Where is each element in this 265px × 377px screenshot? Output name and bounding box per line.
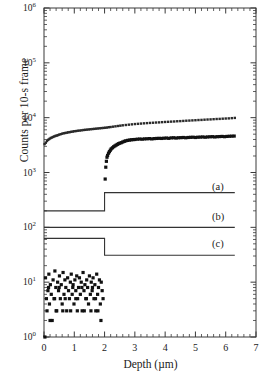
data-point xyxy=(68,297,71,300)
data-point xyxy=(85,297,88,300)
data-point xyxy=(146,122,148,124)
data-point xyxy=(71,293,74,296)
data-point xyxy=(53,297,56,300)
data-point xyxy=(85,278,88,281)
data-point xyxy=(80,281,83,284)
data-point xyxy=(91,289,94,292)
x-tick-label-0: 0 xyxy=(34,342,54,353)
data-point xyxy=(83,283,86,286)
y-tick-mantissa: 10 xyxy=(23,277,33,287)
data-point xyxy=(221,117,223,119)
data-point xyxy=(179,120,181,122)
data-point xyxy=(74,297,77,300)
data-point xyxy=(104,177,107,180)
data-point xyxy=(59,297,62,300)
data-point xyxy=(100,281,103,284)
data-point xyxy=(48,319,51,322)
figure-log-scatter-plot: Counts per 10-s frame Depth (µm) 1061051… xyxy=(0,0,265,377)
data-point xyxy=(60,283,63,286)
data-point xyxy=(97,286,100,289)
data-point xyxy=(64,286,67,289)
data-point xyxy=(233,134,236,137)
y-tick-mantissa: 10 xyxy=(23,222,33,232)
series-upper-scatter xyxy=(43,117,236,146)
data-point xyxy=(93,283,96,286)
data-point xyxy=(53,269,56,272)
data-point xyxy=(203,119,205,121)
data-point xyxy=(79,293,82,296)
data-point xyxy=(43,335,46,338)
data-point xyxy=(152,122,154,124)
data-point xyxy=(128,123,130,125)
data-point xyxy=(164,121,166,123)
data-point xyxy=(101,297,104,300)
data-point xyxy=(117,125,119,127)
data-point xyxy=(125,124,127,126)
data-point xyxy=(94,297,97,300)
data-point xyxy=(88,274,91,277)
data-point xyxy=(61,271,64,274)
data-point xyxy=(182,120,184,122)
data-point xyxy=(89,309,92,312)
data-point xyxy=(67,289,70,292)
y-tick-label-1e2: 102 xyxy=(10,221,36,233)
data-point xyxy=(78,276,81,279)
data-point xyxy=(72,302,75,305)
data-point xyxy=(58,274,61,277)
data-point xyxy=(155,121,157,123)
data-point xyxy=(99,302,102,305)
data-point xyxy=(69,309,72,312)
data-point xyxy=(200,119,202,121)
data-point xyxy=(206,118,208,120)
data-point xyxy=(46,289,49,292)
data-point xyxy=(105,160,108,163)
y-tick-mantissa: 10 xyxy=(23,58,33,68)
data-point xyxy=(101,289,104,292)
data-point xyxy=(66,276,69,279)
data-point xyxy=(77,286,80,289)
data-point xyxy=(170,120,172,122)
data-point xyxy=(71,286,74,289)
data-point xyxy=(55,309,58,312)
data-point xyxy=(57,289,60,292)
data-point xyxy=(58,286,61,289)
x-tick-label-1: 1 xyxy=(64,342,84,353)
data-point xyxy=(45,309,48,312)
data-point xyxy=(122,124,124,126)
data-point xyxy=(112,125,114,127)
data-point xyxy=(61,302,64,305)
curve-c xyxy=(44,238,235,255)
data-point xyxy=(61,309,64,312)
data-point xyxy=(99,319,102,322)
data-point xyxy=(44,276,47,279)
y-tick-exponent: 1 xyxy=(33,275,36,282)
data-point xyxy=(185,120,187,122)
data-point xyxy=(161,121,163,123)
curve-label-a: (a) xyxy=(212,181,224,192)
y-tick-label-1e6: 106 xyxy=(10,2,36,14)
curve-a xyxy=(44,193,235,211)
data-point xyxy=(82,289,85,292)
data-point xyxy=(212,118,214,120)
series-background-noise-scatter xyxy=(43,269,104,338)
data-point xyxy=(228,117,230,119)
y-tick-exponent: 5 xyxy=(33,56,36,63)
data-point xyxy=(49,283,52,286)
data-point xyxy=(137,123,139,125)
data-point xyxy=(104,166,107,169)
data-point xyxy=(91,286,94,289)
data-point xyxy=(47,286,50,289)
data-point xyxy=(95,273,98,276)
data-point xyxy=(109,126,111,128)
data-point xyxy=(149,122,151,124)
data-point xyxy=(73,278,76,281)
curve-label-b: (b) xyxy=(212,211,224,222)
data-point xyxy=(56,281,59,284)
data-point xyxy=(134,123,136,125)
data-point xyxy=(89,293,92,296)
plot-canvas xyxy=(0,0,265,377)
x-tick-label-4: 4 xyxy=(155,342,175,353)
data-point xyxy=(231,117,233,119)
data-point xyxy=(218,118,220,120)
y-tick-label-1e4: 104 xyxy=(10,112,36,124)
